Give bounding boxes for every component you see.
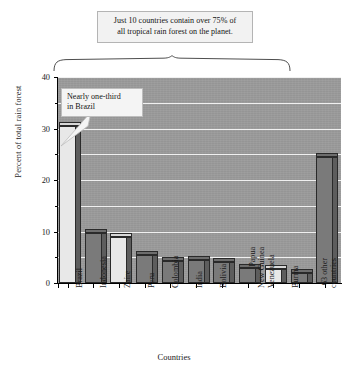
- brazil-callout-line-2: in Brazil: [67, 102, 138, 112]
- y-label-20: 20: [42, 176, 50, 185]
- x-tick-0: [68, 284, 69, 288]
- y-label-10: 10: [42, 227, 50, 236]
- x-label-indonesia: Indonesia: [100, 256, 109, 288]
- y-tick-35: [55, 103, 58, 104]
- y-label-30: 30: [42, 124, 50, 133]
- bar-side-face: [282, 269, 287, 283]
- brazil-callout-line-1: Nearly one-third: [67, 92, 138, 102]
- x-label-burma: Burma: [292, 266, 301, 288]
- y-axis: 40 30 20 10 0: [0, 77, 58, 284]
- bar-side-face: [230, 262, 235, 283]
- x-label-63-other-countries: 63 other countries: [320, 258, 338, 288]
- y-tick-25: [55, 154, 58, 155]
- y-tick-10: [54, 232, 58, 233]
- span-brace-icon: [52, 55, 292, 72]
- x-axis-title: Countries: [0, 352, 348, 362]
- x-tick-1: [93, 284, 94, 288]
- y-label-40: 40: [42, 73, 50, 82]
- y-tick-20: [54, 180, 58, 181]
- y-tick-5: [55, 257, 58, 258]
- top-callout-line-2: all tropical rain forest on the planet.: [103, 27, 247, 38]
- top-callout-box: Just 10 countries contain over 75% of al…: [97, 11, 253, 43]
- x-tick-2: [119, 284, 120, 288]
- bar-side-face: [205, 260, 210, 283]
- y-axis-title: Percent of total rain forest: [14, 62, 23, 202]
- x-label-venezuela: Venezuela: [268, 254, 277, 288]
- x-tick-origin: [58, 284, 59, 288]
- x-label-papua-new-guinea: Papua New Guinea: [248, 247, 266, 288]
- chart-figure: Just 10 countries contain over 75% of al…: [0, 0, 348, 376]
- bar-side-face: [76, 126, 81, 283]
- x-label-brazil: Brazil: [76, 268, 85, 288]
- x-label-zaire: Zaire: [124, 271, 133, 288]
- bar-side-face: [308, 273, 313, 283]
- y-tick-15: [55, 206, 58, 207]
- x-label-peru: Peru: [148, 273, 157, 288]
- bar-front-face: [59, 126, 76, 283]
- y-tick-40: [54, 77, 58, 78]
- x-label-bolivia: Bolivia: [220, 264, 229, 288]
- x-label-india: India: [196, 271, 205, 288]
- top-callout-line-1: Just 10 countries contain over 75% of: [103, 16, 247, 27]
- x-tick-3: [145, 284, 146, 288]
- x-label-colombia: Colombia: [172, 256, 181, 288]
- brazil-callout-box: Nearly one-third in Brazil: [61, 88, 143, 117]
